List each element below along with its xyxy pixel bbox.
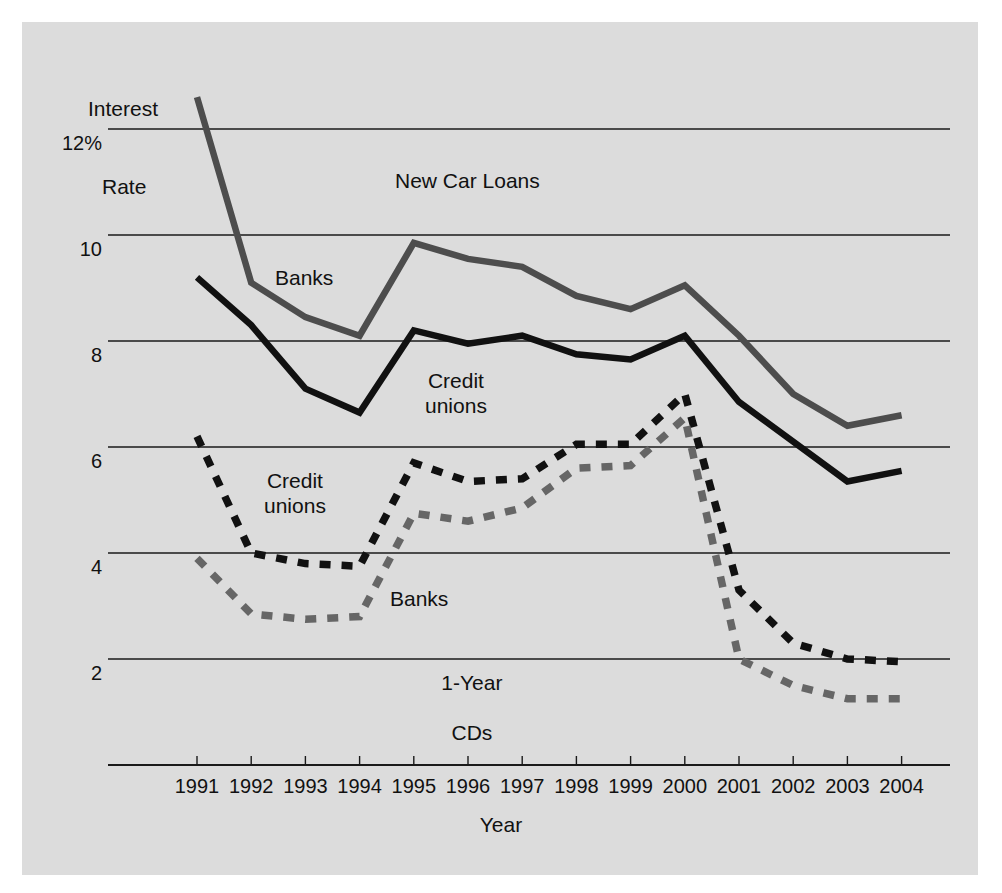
series-line-new-car-loans-credit-unions [197, 277, 902, 481]
series-label-credit-unions-cds: Creditunions [264, 468, 326, 518]
annotation-one-year-cds-line2: CDs [451, 721, 492, 744]
annotation-new-car-loans: New Car Loans [395, 168, 540, 193]
chart-figure: Interest Rate Year 24681012% 19911992199… [0, 0, 1002, 893]
series-line-1-year-cds-credit-unions [197, 394, 902, 662]
series-label-credit-unions-new-car-loans: Creditunions [425, 368, 487, 418]
label-cu-loans-line1: Credit [425, 368, 487, 393]
series-paths [197, 97, 902, 699]
series-label-banks-new-car-loans: Banks [275, 265, 333, 290]
series-line-new-car-loans-banks [197, 97, 902, 426]
label-cu-cds-line1: Credit [264, 468, 326, 493]
annotation-one-year-cds-line1: 1-Year [441, 671, 502, 694]
annotation-one-year-cds: 1-Year CDs [418, 645, 502, 770]
series-label-banks-cds: Banks [390, 586, 448, 611]
x-axis-ticks [197, 756, 902, 765]
series-line-1-year-cds-banks [197, 418, 902, 699]
label-cu-loans-line2: unions [425, 393, 487, 418]
label-cu-cds-line2: unions [264, 493, 326, 518]
